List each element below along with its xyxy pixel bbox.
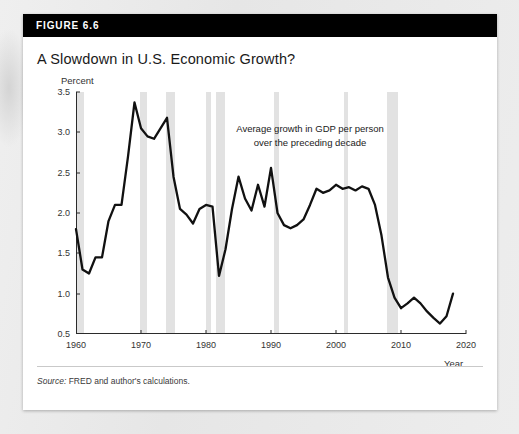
source-divider [37, 366, 483, 367]
figure-card: FIGURE 6.6 A Slowdown in U.S. Economic G… [23, 14, 497, 410]
figure-title: A Slowdown in U.S. Economic Growth? [23, 37, 497, 67]
y-tick-label: 2.5 [57, 168, 76, 178]
plot-region: 0.51.01.52.02.53.03.5 196019701980199020… [76, 92, 466, 334]
figure-header-bar: FIGURE 6.6 [23, 14, 497, 37]
x-axis-label: Year [444, 358, 463, 369]
y-tick-label: 2.0 [57, 208, 76, 218]
y-tick-label: 3.0 [57, 127, 76, 137]
x-tick-label: 1980 [196, 334, 216, 350]
chart-annotation: Average growth in GDP per person over th… [236, 123, 384, 151]
y-tick-label: 1.0 [57, 289, 76, 299]
y-tick-label: 3.5 [57, 87, 76, 97]
y-tick-label: 1.5 [57, 248, 76, 258]
source-text: FRED and author's calculations. [66, 376, 190, 386]
source-prefix: Source: [37, 376, 66, 386]
y-axis-unit-label: Percent [61, 75, 94, 86]
chart-area: Percent 0.51.01.52.02.53.03.5 1960197019… [23, 75, 497, 375]
source-note: Source: FRED and author's calculations. [37, 376, 190, 386]
x-tick-label: 1970 [131, 334, 151, 350]
x-tick-label: 2000 [326, 334, 346, 350]
figure-number-label: FIGURE 6.6 [23, 20, 99, 31]
x-tick-label: 2020 [456, 334, 476, 350]
x-tick-label: 2010 [391, 334, 411, 350]
x-tick-label: 1960 [66, 334, 86, 350]
x-tick-label: 1990 [261, 334, 281, 350]
